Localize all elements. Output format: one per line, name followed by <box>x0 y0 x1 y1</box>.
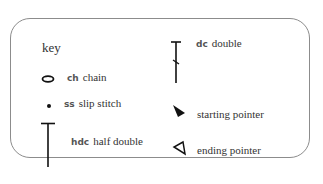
outline-arrow-icon <box>172 141 186 155</box>
legend-item-slip-stitch: ssslip stitch <box>64 97 121 109</box>
dot-slip-stitch-icon <box>46 103 52 109</box>
legend-item-half-double: hdchalf double <box>71 135 143 147</box>
key-title: key <box>42 40 61 56</box>
t-bar-half-double-icon <box>40 122 56 168</box>
legend-item-starting-pointer: starting pointer <box>197 108 264 120</box>
filled-arrow-icon <box>172 104 186 118</box>
legend-item-ending-pointer: ending pointer <box>197 144 261 156</box>
legend-item-double: dcdouble <box>196 37 242 49</box>
t-bar-slash-double-icon <box>170 41 184 84</box>
oval-chain-icon <box>41 75 55 83</box>
legend-item-chain: chchain <box>67 71 107 83</box>
